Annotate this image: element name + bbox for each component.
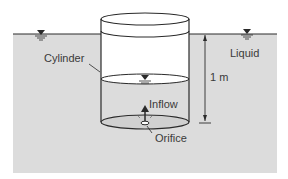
orifice-icon	[141, 121, 149, 125]
liquid-label: Liquid	[230, 47, 259, 59]
cylinder-label: Cylinder	[44, 52, 85, 64]
orifice-label: Orifice	[155, 132, 187, 144]
cylinder-orifice-diagram: Cylinder Liquid 1 m Inflow Orifice	[0, 0, 288, 179]
height-label: 1 m	[210, 71, 228, 83]
inflow-label: Inflow	[149, 98, 178, 110]
